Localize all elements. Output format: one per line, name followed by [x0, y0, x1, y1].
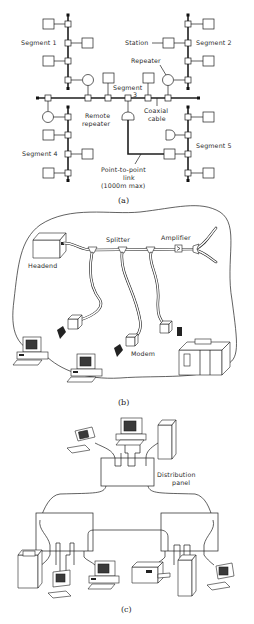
station-icon — [103, 73, 114, 83]
terminator-icon — [36, 97, 39, 100]
station-icon — [203, 168, 214, 178]
segment-1-label: Segment 1 — [21, 39, 57, 47]
figure-a-caption: (a) — [118, 196, 129, 205]
transceiver-tap-icon — [185, 151, 191, 157]
mainframe-computer-icon — [179, 339, 230, 375]
repeater-label: Repeater — [131, 57, 161, 65]
signal-wave-icon — [177, 327, 182, 336]
desktop-computer-icon — [116, 418, 146, 445]
station-icon — [143, 73, 154, 83]
p2p-leader-line — [135, 154, 141, 164]
splitter-label: Splitter — [106, 236, 130, 244]
station-icon — [203, 56, 214, 66]
transceiver-tap-icon — [185, 40, 191, 46]
repeater-leader-line — [160, 65, 166, 75]
point-to-point-link — [128, 120, 164, 154]
modem-icon — [68, 315, 82, 329]
remote-repeater-icon — [122, 112, 134, 120]
amplifier-icon — [175, 245, 182, 252]
laser-printer-icon — [132, 562, 170, 583]
modem-icon — [160, 321, 172, 333]
transceiver-tap-icon — [185, 170, 191, 176]
p2p-label-2: link — [123, 174, 135, 181]
distribution-panel — [36, 513, 93, 551]
headend-icon — [33, 233, 66, 258]
terminator-icon — [67, 87, 70, 90]
segment-5-label: Segment 5 — [196, 142, 232, 150]
terminator-icon — [187, 87, 190, 90]
desktop-computer-icon — [13, 337, 48, 365]
transceiver-tap-icon — [185, 21, 191, 27]
distribution-panel-label-1: Distribution — [157, 471, 196, 478]
terminal-icon — [207, 563, 234, 590]
transceiver-tap-icon — [65, 170, 71, 176]
repeater-icon — [83, 75, 94, 86]
station-icon — [82, 38, 93, 48]
headend-label: Headend — [28, 262, 57, 269]
station-icon — [43, 168, 54, 178]
terminator-icon — [67, 106, 70, 109]
figure-c-caption: (c) — [121, 605, 132, 614]
signal-wave-icon — [114, 344, 123, 357]
coaxial-cable-label-2: cable — [148, 115, 166, 122]
station-icon — [82, 149, 93, 159]
transceiver-tap-icon — [105, 95, 111, 101]
terminator-icon — [187, 179, 190, 182]
figure-b-broadband-network: Headend Splitter Amplifier — [13, 206, 237, 407]
transceiver-tap-icon — [65, 114, 71, 120]
figure-b-caption: (b) — [118, 398, 129, 407]
terminator-icon — [187, 14, 190, 17]
p2p-label-1: Point-to-point — [101, 166, 146, 174]
transceiver-tap-icon — [65, 21, 71, 27]
transceiver-tap-icon — [185, 114, 191, 120]
modem-icon — [126, 334, 138, 346]
terminator-icon — [67, 179, 70, 182]
remote-repeater-icon — [166, 130, 175, 140]
station-icon — [43, 19, 54, 29]
transceiver-tap-icon — [185, 132, 191, 138]
terminator-icon — [187, 106, 190, 109]
figure-a-ethernet-segments: Segment 1 Station Segment 2 Repeater — [21, 14, 232, 206]
cabinet-server-icon — [158, 420, 176, 459]
remote-repeater-label-1: Remote — [85, 112, 110, 119]
transceiver-tap-icon — [185, 77, 191, 83]
branch-splitter-icon — [193, 244, 199, 254]
terminal-icon — [67, 427, 95, 453]
amplifier-label: Amplifier — [161, 234, 191, 242]
remote-repeater-station-icon — [164, 149, 175, 159]
station-icon — [163, 38, 174, 48]
transceiver-tap-icon — [65, 132, 71, 138]
transceiver-tap-icon — [65, 151, 71, 157]
remote-repeater-label-2: repeater — [82, 120, 110, 128]
transceiver-tap-icon — [185, 58, 191, 64]
station-icon — [203, 112, 214, 122]
transceiver-tap-icon — [145, 95, 151, 101]
p2p-label-3: (1000m max) — [101, 182, 145, 189]
cabinet-server-icon — [178, 555, 196, 596]
distribution-panel-label-2: panel — [172, 479, 190, 487]
modem-label: Modem — [131, 350, 155, 357]
transceiver-tap-icon — [65, 40, 71, 46]
segment-2-label: Segment 2 — [196, 39, 232, 47]
signal-wave-icon — [57, 326, 66, 339]
transceiver-tap-icon — [85, 95, 91, 101]
transceiver-tap-icon — [65, 77, 71, 83]
segment-3-number: 3 — [133, 91, 137, 98]
transceiver-tap-icon — [125, 95, 131, 101]
repeater-icon — [43, 112, 54, 123]
transceiver-tap-icon — [65, 58, 71, 64]
terminator-icon — [197, 97, 200, 100]
figure-c-distribution-panels: Distribution panel — [18, 418, 234, 614]
desktop-computer-icon — [88, 561, 119, 589]
station-label: Station — [125, 39, 148, 46]
transceiver-tap-icon — [165, 95, 171, 101]
terminator-icon — [67, 14, 70, 17]
station-icon — [203, 19, 214, 29]
station-icon — [43, 130, 54, 140]
transceiver-tap-icon — [45, 95, 51, 101]
station-icon — [43, 56, 54, 66]
printer-cabinet-icon — [18, 550, 42, 588]
coaxial-cable-label-1: Coaxial — [144, 107, 168, 114]
segment-3-label: Segment — [113, 84, 143, 92]
segment-4-label: Segment 4 — [22, 150, 58, 158]
